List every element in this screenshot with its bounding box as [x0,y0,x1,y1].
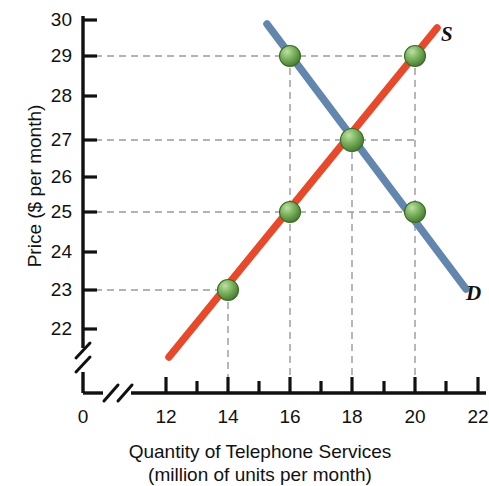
y-axis-title: Price ($ per month) [24,71,46,301]
x-tick-label-14: 14 [208,406,248,428]
x-tick-label-20: 20 [395,406,435,428]
y-tick-label-22: 22 [38,318,72,340]
point-supply-16-25 [280,202,301,223]
point-supply-20-29 [405,46,426,67]
supply-curve-label: S [441,22,453,47]
x-axis-ticks [166,377,478,393]
point-demand-16-29 [280,46,301,67]
point-demand-20-25 [405,202,426,223]
x-tick-label-16: 16 [270,406,310,428]
x-axis-title: Quantity of Telephone Services (million … [60,440,460,486]
vertical-guide-lines [228,56,415,392]
demand-curve-label: D [466,281,481,306]
x-axis-title-line2: (million of units per month) [60,463,460,486]
x-tick-label-12: 12 [146,406,186,428]
x-axis-title-line1: Quantity of Telephone Services [60,440,460,463]
point-equilibrium-18-27 [341,129,364,152]
y-tick-label-30: 30 [38,9,72,31]
x-tick-label-18: 18 [332,406,372,428]
y-axis-ticks [83,20,97,329]
point-supply-14-23 [218,280,239,301]
x-axis-break-mark [104,385,132,401]
y-tick-label-29: 29 [38,45,72,67]
x-tick-label-22: 22 [458,406,489,428]
axis-origin-label: 0 [63,406,103,428]
